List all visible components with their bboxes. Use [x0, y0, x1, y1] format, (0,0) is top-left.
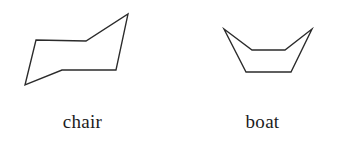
cyclohexane-conformations-figure: chair boat	[0, 0, 349, 150]
chair-label: chair	[0, 112, 165, 131]
boat-label: boat	[180, 112, 345, 131]
boat-conformation-shape	[224, 29, 312, 72]
chair-conformation-shape	[25, 14, 128, 85]
